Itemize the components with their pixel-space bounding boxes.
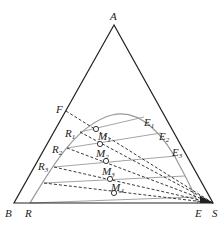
ternary-diagram: A B S F R E R1 R2 R3 E1 E2 E3 M1 M2 M3 M… (0, 0, 222, 227)
raffinate-label-1: R1 (64, 127, 75, 141)
raffinate-label-3: R3 (37, 160, 49, 174)
mixture-label-1: M1 (97, 130, 111, 144)
mixture-label-4: M4 (110, 181, 124, 195)
point-label-f: F (55, 103, 63, 115)
point-label-e: E (194, 207, 202, 219)
extract-label-3: E3 (171, 146, 183, 160)
mixture-label-3: M3 (101, 165, 115, 179)
point-label-r: R (24, 207, 32, 219)
vertex-label-s: S (212, 207, 218, 219)
mixture-label-2: M2 (95, 147, 109, 161)
vertex-label-a: A (109, 10, 117, 22)
vertex-label-b: B (5, 207, 12, 219)
extract-label-2: E2 (158, 130, 170, 144)
raffinate-label-2: R2 (51, 143, 63, 157)
extract-label-1: E1 (143, 116, 154, 130)
